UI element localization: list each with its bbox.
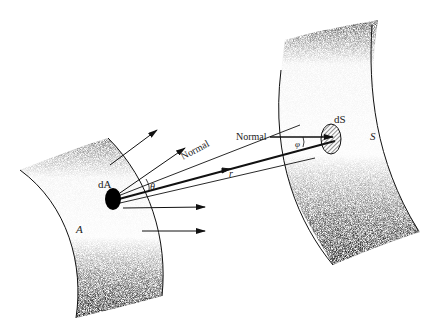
surface-A-shading bbox=[20, 138, 163, 318]
label-phi: φ bbox=[295, 139, 300, 149]
label-dA: dA bbox=[98, 178, 112, 190]
surface-A bbox=[20, 138, 163, 318]
label-theta: θ bbox=[150, 181, 155, 192]
label-normal-S: Normal bbox=[236, 131, 267, 142]
element-dA bbox=[105, 188, 121, 210]
element-dS bbox=[321, 124, 341, 154]
ray-top bbox=[118, 125, 300, 196]
label-normal-A: Normal bbox=[179, 138, 211, 162]
label-surface-A: A bbox=[75, 223, 83, 235]
label-dS: dS bbox=[334, 113, 346, 125]
view-factor-diagram: dA A Normal θ r Normal φ dS S bbox=[0, 0, 435, 333]
label-surface-S: S bbox=[370, 130, 376, 142]
label-r: r bbox=[229, 168, 233, 179]
